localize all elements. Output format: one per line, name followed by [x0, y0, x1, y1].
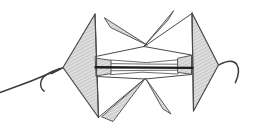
illustration-frame	[0, 0, 267, 132]
left-string-curl	[41, 69, 61, 92]
top-left-sliver-flap	[105, 18, 148, 45]
right-string	[219, 61, 238, 82]
right-kite-panel	[192, 13, 219, 111]
right-shaded-pocket	[178, 55, 192, 74]
left-kite-panel	[63, 14, 99, 118]
shape-layer	[0, 11, 238, 122]
bottom-left-sliver-flap	[102, 79, 145, 122]
center-thread-line	[96, 67, 193, 68]
origami-diagram	[0, 0, 267, 132]
bottom-left-flap-crease	[99, 79, 145, 118]
bottom-right-sliver-flap	[146, 79, 171, 114]
